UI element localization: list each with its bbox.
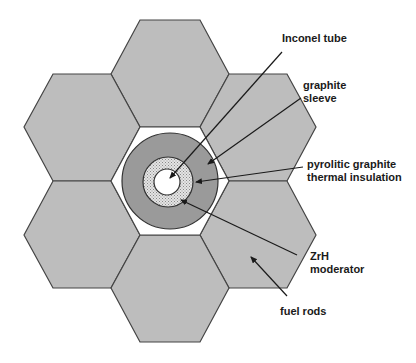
inconel-tube: [154, 169, 180, 195]
label-pyrolitic-graphite: pyrolitic graphite thermal insulation: [307, 158, 402, 184]
label-zrh-line1: ZrH: [310, 250, 364, 263]
label-zrh-moderator: ZrH moderator: [310, 250, 364, 276]
label-graphite-sleeve-line2: sleeve: [303, 92, 346, 105]
label-inconel-tube: Inconel tube: [282, 32, 347, 45]
label-fuel-rods: fuel rods: [280, 305, 326, 318]
label-pyrolitic-line1: pyrolitic graphite: [307, 158, 402, 171]
label-pyrolitic-line2: thermal insulation: [307, 171, 402, 184]
label-zrh-line2: moderator: [310, 263, 364, 276]
label-graphite-sleeve: graphite sleeve: [303, 79, 346, 105]
label-graphite-sleeve-line1: graphite: [303, 79, 346, 92]
